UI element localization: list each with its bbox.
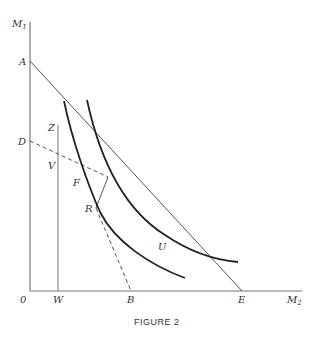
figure-caption: FIGURE 2: [134, 317, 180, 327]
point-label-w: W: [53, 294, 64, 305]
point-label-f: F: [72, 177, 81, 188]
economics-diagram: M1 A D Z V F R U 0 W B E M2 FIGURE 2: [0, 0, 315, 342]
line-fr: [96, 177, 108, 208]
x-axis-label: M2: [286, 294, 302, 307]
line-rb-dashed: [96, 208, 131, 291]
point-label-a: A: [18, 56, 26, 67]
point-label-b: B: [126, 294, 134, 305]
point-label-u: U: [158, 241, 167, 252]
inner-indifference-curve: [64, 101, 185, 278]
line-df-dashed: [30, 141, 108, 177]
point-label-z: Z: [47, 122, 56, 133]
origin-label: 0: [20, 294, 27, 305]
point-label-d: D: [17, 136, 26, 147]
point-label-v: V: [48, 160, 57, 171]
outer-indifference-curve: [87, 100, 238, 262]
y-axis-label: M1: [11, 18, 27, 31]
point-label-e: E: [237, 294, 246, 305]
point-label-r: R: [84, 203, 93, 214]
